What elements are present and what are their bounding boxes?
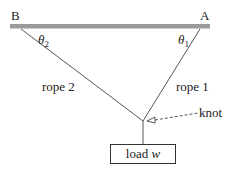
knot-pointer-line	[155, 113, 198, 120]
load-box: load w	[110, 144, 176, 164]
label-rope-1: rope 1	[176, 80, 209, 93]
rope-1-line	[143, 29, 200, 121]
label-theta-1: θ1	[178, 33, 189, 49]
theta-subscript: 2	[44, 39, 49, 49]
label-theta-2: θ2	[38, 33, 49, 49]
label-point-b: B	[11, 9, 20, 22]
ceiling-bar	[10, 24, 210, 29]
label-rope-2: rope 2	[42, 80, 75, 93]
load-variable: w	[151, 146, 160, 161]
label-point-a: A	[200, 9, 209, 22]
load-label: load	[126, 146, 152, 161]
label-knot: knot	[199, 106, 222, 119]
knot-arrow-icon	[147, 117, 155, 123]
theta-subscript: 1	[184, 39, 189, 49]
